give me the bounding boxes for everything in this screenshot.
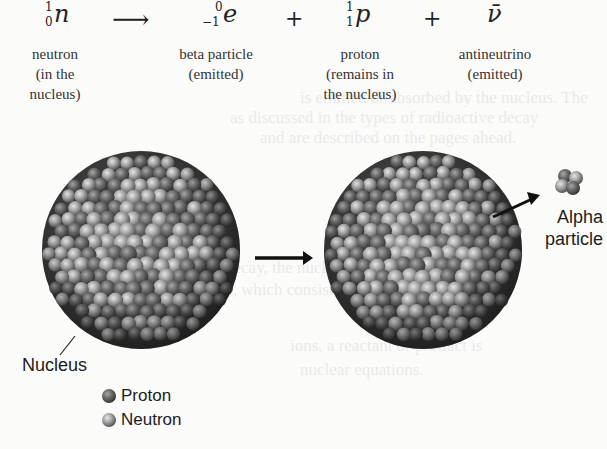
nucleus-label: Nucleus <box>22 355 87 376</box>
nucleus-shading <box>324 151 522 349</box>
legend-neutron-label: Neutron <box>121 410 181 430</box>
alpha-decay-diagram <box>0 0 607 449</box>
proton-legend-icon <box>102 389 116 403</box>
nucleus-shading <box>42 151 240 349</box>
nucleus-pointer-line <box>60 336 75 355</box>
parent-nucleus <box>42 151 240 349</box>
legend-proton-label: Proton <box>121 386 171 406</box>
alpha-particle-label: particle <box>545 229 603 250</box>
proton-sphere <box>566 181 580 195</box>
alpha-particle-label: Alpha <box>557 207 603 228</box>
neutron-legend-icon <box>102 413 116 427</box>
alpha-particle <box>555 169 583 195</box>
transition-arrow-icon <box>255 251 313 265</box>
daughter-nucleus <box>324 151 522 349</box>
